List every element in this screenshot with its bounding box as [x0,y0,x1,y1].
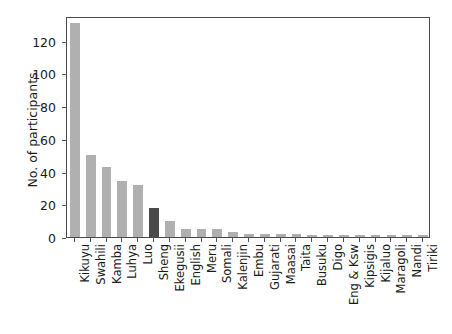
bar [70,23,80,237]
x-tick-mark [343,238,344,242]
x-tick-mark [311,238,312,242]
x-tick-mark [248,238,249,242]
x-tick-label: Digo [331,244,345,270]
x-tick-mark [406,238,407,242]
bar [117,181,127,237]
bar [339,235,349,237]
bar [260,234,270,237]
bar [292,234,302,237]
x-tick-label: Gujarati [268,244,282,290]
x-tick-label: Kamba [110,244,124,284]
x-tick-label: Somali [220,244,234,283]
bar [149,208,159,237]
x-tick-mark [90,238,91,242]
bar [402,235,412,237]
bar [228,232,238,237]
x-tick-mark [295,238,296,242]
bar [133,185,143,237]
y-tick-label: 80 [40,100,56,115]
x-tick-label: Maasai [284,244,298,284]
bar [102,167,112,237]
x-tick-mark [422,238,423,242]
x-tick-label: Eng & Ksw [347,244,361,305]
x-tick-label: English [189,244,203,286]
x-tick-mark [185,238,186,242]
x-tick-label: Luhya [125,244,139,279]
x-tick-mark [153,238,154,242]
x-tick-mark [106,238,107,242]
x-tick-mark [327,238,328,242]
x-tick-label: Sheng [157,244,171,280]
y-tick-label: 0 [48,231,56,246]
bar [418,235,428,237]
x-tick-mark [390,238,391,242]
y-tick-label: 20 [40,198,56,213]
x-tick-label: Meru [205,244,219,273]
y-tick-label: 100 [32,67,56,82]
x-tick-label: Swahili [94,244,108,285]
x-tick-mark [201,238,202,242]
x-tick-label: Kalenjin [236,244,250,290]
x-tick-label: Luo [141,244,155,265]
x-tick-mark [359,238,360,242]
x-tick-label: Busuku [315,244,329,286]
x-tick-label: Tiriki [426,244,440,272]
x-tick-mark [280,238,281,242]
y-tick-label: 40 [40,165,56,180]
bar [181,229,191,237]
bar [86,155,96,237]
bar [307,235,317,237]
x-tick-label: Maragoli [394,244,408,293]
bar [387,235,397,237]
bar [244,234,254,237]
bar [355,235,365,237]
bar [197,229,207,237]
x-tick-mark [169,238,170,242]
x-tick-mark [232,238,233,242]
bar [276,234,286,237]
bar [165,221,175,237]
bar [371,235,381,237]
y-axis-ticks: 020406080100120 [0,0,66,334]
x-tick-mark [375,238,376,242]
x-tick-label: Taita [299,244,313,271]
x-tick-mark [137,238,138,242]
y-tick-label: 60 [40,132,56,147]
x-tick-label: Embu [252,244,266,277]
x-tick-label: Kikuyu [78,244,92,282]
x-tick-mark [74,238,75,242]
bar-series [67,18,429,237]
bar [323,235,333,237]
x-tick-mark [121,238,122,242]
x-axis-ticks: KikuyuSwahiliKambaLuhyaLuoShengEkegusiiE… [66,238,430,334]
x-tick-label: Kijaluo [379,244,393,283]
y-tick-label: 120 [32,34,56,49]
plot-area [66,17,430,238]
x-tick-label: Nandi [410,244,424,277]
x-tick-mark [216,238,217,242]
x-tick-mark [264,238,265,242]
bar-chart-figure: No. of participants 020406080100120 Kiku… [0,0,452,334]
x-tick-label: Ekegusii [173,244,187,292]
x-tick-label: Kipsigis [363,244,377,288]
bar [212,229,222,237]
